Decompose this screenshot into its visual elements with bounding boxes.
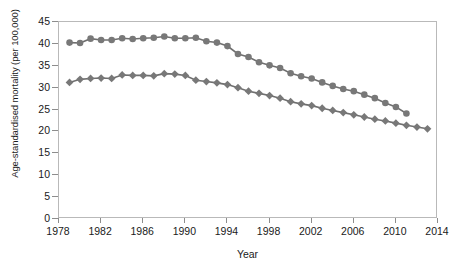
data-point-marker [160, 70, 168, 78]
data-point-marker [119, 35, 126, 42]
data-point-marker [87, 35, 94, 42]
data-point-marker [139, 72, 147, 80]
x-tick-label: 1986 [122, 226, 162, 237]
chart-figure: Age-standardised mortality (per 100,000)… [0, 0, 456, 271]
data-point-marker [150, 72, 158, 80]
data-point-marker [308, 102, 316, 110]
data-point-marker [287, 70, 294, 77]
data-point-marker [350, 88, 357, 95]
data-point-marker [372, 95, 379, 102]
data-point-marker [329, 107, 337, 115]
data-point-marker [350, 111, 358, 119]
x-tick-label: 1994 [206, 226, 246, 237]
y-tick-label: 30 [24, 82, 50, 93]
data-point-marker [413, 123, 421, 131]
data-point-marker [202, 78, 210, 86]
y-tick-label: 15 [24, 147, 50, 158]
x-tick-label: 2010 [375, 226, 415, 237]
data-point-marker [255, 89, 263, 97]
data-point-marker [181, 72, 189, 80]
plot-area [58, 21, 437, 218]
x-tick-label: 2006 [333, 226, 373, 237]
data-point-marker [98, 37, 105, 44]
data-point-marker [371, 115, 379, 123]
data-point-marker [108, 37, 115, 44]
data-point-marker [118, 71, 126, 79]
data-point-marker [360, 113, 368, 121]
data-point-marker [182, 35, 189, 42]
data-point-marker [266, 62, 273, 69]
data-point-marker [234, 84, 242, 92]
data-point-marker [171, 70, 179, 78]
y-tick-label: 25 [24, 104, 50, 115]
y-tick-mark [52, 218, 58, 219]
data-point-marker [214, 39, 221, 46]
data-point-marker [361, 91, 368, 98]
data-point-marker [203, 38, 210, 45]
data-point-marker [245, 54, 252, 61]
data-point-marker [161, 33, 168, 40]
y-axis-title: Age-standardised mortality (per 100,000) [9, 0, 20, 194]
y-tick-label: 5 [24, 191, 50, 202]
data-point-marker [319, 79, 326, 86]
x-tick-label: 1998 [249, 226, 289, 237]
data-point-marker [392, 119, 400, 127]
data-point-marker [140, 35, 147, 42]
data-point-marker [150, 34, 157, 41]
data-point-marker [108, 75, 116, 83]
data-point-marker [340, 86, 347, 93]
data-point-marker [224, 43, 231, 50]
data-point-marker [298, 73, 305, 80]
x-tick-label: 2002 [291, 226, 331, 237]
data-point-marker [172, 35, 179, 42]
x-tick-label: 1982 [80, 226, 120, 237]
data-point-marker [424, 125, 432, 133]
data-point-marker [87, 75, 95, 83]
data-point-marker [256, 59, 263, 66]
y-tick-label: 0 [24, 213, 50, 224]
data-point-marker [66, 79, 74, 87]
data-point-marker [129, 36, 136, 43]
data-point-marker [308, 75, 315, 82]
y-tick-label: 35 [24, 60, 50, 71]
x-tick-label: 1978 [38, 226, 78, 237]
x-tick-label: 2014 [417, 226, 456, 237]
data-point-marker [76, 75, 84, 83]
y-tick-label: 45 [24, 16, 50, 27]
y-tick-label: 10 [24, 169, 50, 180]
data-point-marker [77, 40, 84, 47]
data-point-marker [329, 83, 336, 90]
data-point-marker [297, 100, 305, 108]
data-point-marker [97, 74, 105, 82]
y-tick-label: 20 [24, 125, 50, 136]
data-point-marker [224, 81, 232, 89]
data-point-marker [339, 109, 347, 117]
data-point-marker [403, 121, 411, 129]
data-point-marker [318, 104, 326, 112]
data-point-marker [192, 76, 200, 84]
data-point-marker [277, 65, 284, 72]
data-point-marker [287, 98, 295, 106]
data-point-marker [276, 94, 284, 102]
x-axis-title: Year [58, 248, 437, 260]
data-point-marker [213, 79, 221, 87]
y-tick-label: 40 [24, 38, 50, 49]
data-point-marker [193, 34, 200, 41]
data-point-marker [381, 117, 389, 125]
chart-canvas [59, 22, 438, 219]
data-point-marker [266, 92, 274, 100]
data-point-marker [245, 87, 253, 95]
data-point-marker [129, 72, 137, 80]
data-point-marker [403, 110, 410, 117]
x-tick-label: 1990 [164, 226, 204, 237]
data-point-marker [235, 51, 242, 58]
data-point-marker [393, 104, 400, 111]
data-point-marker [382, 100, 389, 107]
data-point-marker [66, 39, 73, 46]
